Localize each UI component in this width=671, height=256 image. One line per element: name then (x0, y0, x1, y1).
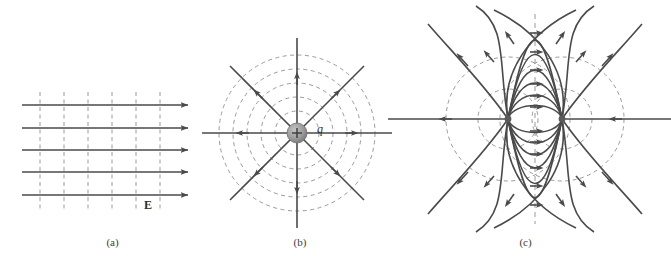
field-line-figure: E (a) (0, 0, 671, 256)
field-label-E: E (144, 198, 152, 213)
panel-point-charge: q (b) (205, 0, 395, 256)
caption-a: (a) (0, 236, 225, 248)
charge-label-q: q (317, 122, 323, 137)
panel-dipole-field: (c) (380, 0, 671, 256)
panel-a-svg (0, 0, 225, 256)
dipole-negative-charge (559, 116, 566, 123)
panel-c-svg (380, 0, 671, 256)
caption-c: (c) (380, 236, 671, 248)
field-lines-c (388, 6, 671, 232)
panel-uniform-field: E (a) (0, 0, 225, 256)
equipotential-lines-a (40, 92, 160, 212)
dipole-positive-charge (505, 116, 512, 123)
field-lines-a (22, 105, 188, 195)
panel-b-svg (205, 0, 395, 256)
caption-b: (b) (205, 236, 395, 248)
